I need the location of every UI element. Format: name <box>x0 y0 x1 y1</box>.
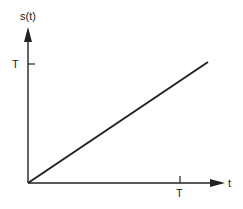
y-axis-arrow-icon <box>24 27 32 42</box>
x-tick-label: T <box>176 187 183 199</box>
y-tick-label: T <box>12 58 19 70</box>
ramp-line <box>28 62 208 183</box>
x-axis-arrow-icon <box>210 179 225 187</box>
chart-canvas: s(t) T t T <box>0 0 243 209</box>
x-axis-label: t <box>228 177 231 189</box>
y-axis-label: s(t) <box>20 10 36 22</box>
